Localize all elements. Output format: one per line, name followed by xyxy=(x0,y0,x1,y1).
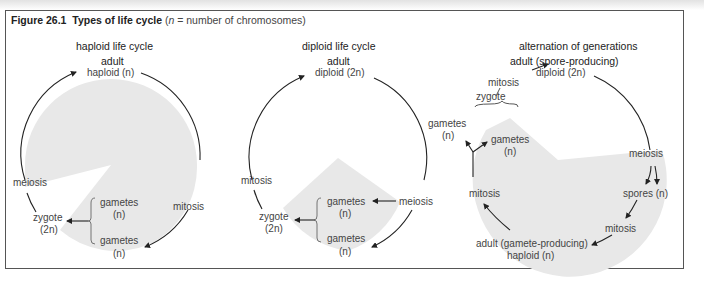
haploid-zygote-label: zygote xyxy=(33,212,62,224)
alternation-gametes-1-ploidy: (n) xyxy=(442,130,454,142)
alternation-adult-gametophyte-label: adult (gamete-producing) xyxy=(476,238,588,250)
alternation-meiosis-label: meiosis xyxy=(629,148,663,160)
diploid-heading: diploid life cycle xyxy=(302,40,376,52)
haploid-mitosis-label: mitosis xyxy=(173,201,204,213)
alternation-spores-label: spores (n) xyxy=(623,188,668,200)
diploid-zygote-label: zygote xyxy=(259,211,288,223)
alternation-adult-sporophyte-label: adult (spore-producing) xyxy=(510,55,619,67)
alternation-mitosis-top-label: mitosis xyxy=(488,77,519,89)
diploid-arc-right xyxy=(374,78,427,180)
diploid-gametes-2-label: gametes xyxy=(327,233,365,245)
diploid-gametes-1-label: gametes xyxy=(327,196,365,208)
haploid-zygote-ploidy: (2n) xyxy=(40,224,58,236)
diploid-gametes-2-ploidy: (n) xyxy=(339,246,351,258)
haploid-gametes-2-ploidy: (n) xyxy=(113,248,125,260)
alternation-gametes-2-ploidy: (n) xyxy=(504,146,516,158)
diploid-adult-label: adult xyxy=(327,55,350,67)
alternation-arc-top-right xyxy=(594,76,650,150)
diploid-mitosis-label: mitosis xyxy=(241,175,272,187)
alternation-sporophyte-ploidy: diploid (2n) xyxy=(536,67,585,79)
alternation-zygote-label: zygote xyxy=(476,91,505,103)
haploid-meiosis-label: meiosis xyxy=(13,177,47,189)
haploid-gametes-1-ploidy: (n) xyxy=(113,209,125,221)
haploid-cycle xyxy=(0,54,200,251)
diploid-meiosis-label: meiosis xyxy=(399,196,433,208)
alternation-gametes-2-label: gametes xyxy=(491,134,529,146)
diploid-arc-left xyxy=(249,76,304,180)
alternation-gametophyte-ploidy: haploid (n) xyxy=(507,250,554,262)
alternation-mitosis-left-label: mitosis xyxy=(469,188,500,200)
haploid-gametes-2-label: gametes xyxy=(100,235,138,247)
haploid-adult-label: adult xyxy=(101,55,124,67)
diploid-arc-mitosis xyxy=(254,190,262,209)
diploid-zygote-ploidy: (2n) xyxy=(265,223,283,235)
haploid-adult-ploidy: haploid (n) xyxy=(87,67,134,79)
haploid-heading: haploid life cycle xyxy=(76,40,153,52)
alternation-gametes-1-label: gametes xyxy=(428,118,466,130)
diploid-adult-ploidy: diploid (2n) xyxy=(315,67,364,79)
alternation-mitosis-right-label: mitosis xyxy=(605,223,636,235)
diploid-gametes-1-ploidy: (n) xyxy=(339,208,351,220)
haploid-gametes-1-label: gametes xyxy=(100,197,138,209)
alternation-heading: alternation of generations xyxy=(519,40,638,52)
